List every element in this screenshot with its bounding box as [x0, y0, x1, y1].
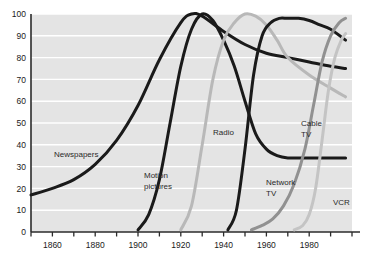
y-axis-tick-label: 0 — [21, 227, 26, 237]
x-axis-tick-label: 1960 — [257, 240, 276, 250]
y-axis-tick-label: 90 — [17, 31, 27, 41]
series-annotation-label: Radio — [213, 128, 234, 137]
y-axis-tick-label: 50 — [17, 118, 27, 128]
x-axis-tick-label: 1920 — [171, 240, 190, 250]
series-annotation-label: Network — [266, 178, 296, 187]
chart-container: 0102030405060708090100 18601880190019201… — [0, 0, 373, 257]
y-axis-tick-label: 30 — [17, 162, 27, 172]
y-axis-tick-label: 20 — [17, 184, 27, 194]
y-axis-tick-label: 80 — [17, 53, 27, 63]
y-axis-tick-label: 40 — [17, 140, 27, 150]
series-annotation-label: Cable — [301, 119, 322, 128]
x-axis-tick-label: 1980 — [300, 240, 319, 250]
x-axis-tick-label: 1940 — [214, 240, 233, 250]
x-axis-tick-labels-group: 1860188019001920194019601980 — [43, 240, 319, 250]
series-annotation-label: VCR — [333, 198, 350, 207]
y-axis-tick-label: 10 — [17, 205, 27, 215]
y-axis-tick-label: 100 — [12, 9, 26, 19]
series-annotation-label: pictures — [144, 182, 172, 191]
y-axis-tick-label: 70 — [17, 75, 27, 85]
y-axis-tick-label: 60 — [17, 96, 27, 106]
adoption-curves-chart: 0102030405060708090100 18601880190019201… — [0, 0, 373, 257]
series-annotation-label: TV — [266, 189, 277, 198]
y-axis-tick-labels-group: 0102030405060708090100 — [12, 9, 26, 237]
series-annotation-label: TV — [301, 130, 312, 139]
series-annotation-label: Motion — [144, 171, 168, 180]
x-axis-tick-label: 1900 — [129, 240, 148, 250]
series-annotation-label: Newspapers — [54, 150, 98, 159]
x-axis-tick-label: 1860 — [43, 240, 62, 250]
x-axis-tick-label: 1880 — [86, 240, 105, 250]
